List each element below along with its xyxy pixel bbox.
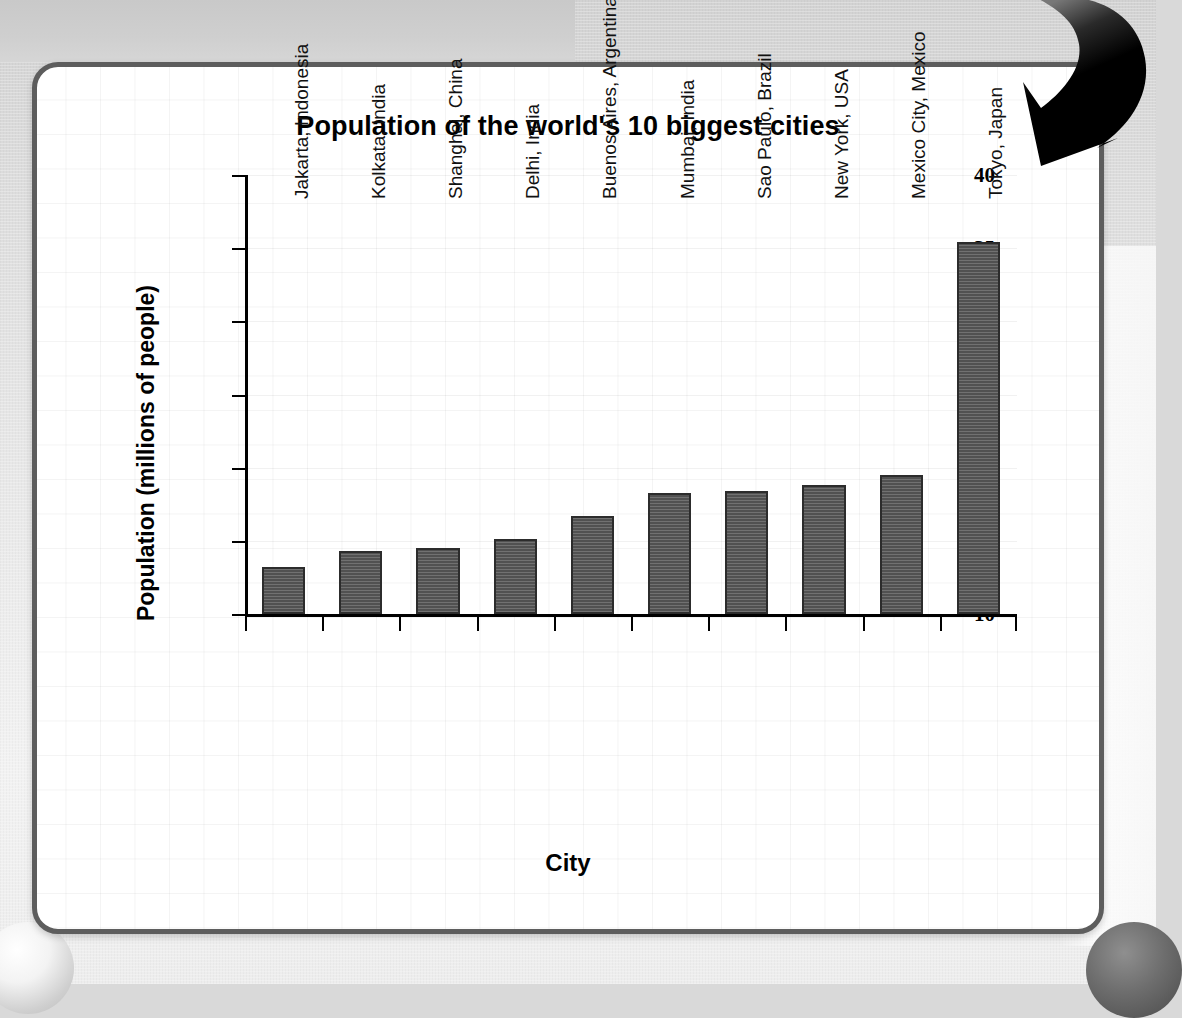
y-tick [232,395,245,397]
gridline [247,175,1017,176]
bar [648,493,691,614]
gridline [247,395,1017,396]
category-label: Delhi, India [522,104,544,199]
category-label: Buenos Aires, Argentina [599,0,621,199]
bar [725,491,768,614]
category-label: Kolkata, India [368,84,390,199]
chart-title: Population of the world's 10 biggest cit… [37,111,1099,142]
chart-panel: Population of the world's 10 biggest cit… [32,62,1104,934]
category-label: New York, USA [831,69,853,199]
x-tick [631,617,633,631]
x-tick [785,617,787,631]
category-label: Tokyo, Japan [985,87,1007,199]
x-tick [1015,617,1017,631]
bar [339,551,382,614]
y-tick [232,614,245,616]
y-tick [232,541,245,543]
y-axis-line [245,175,248,617]
x-tick [322,617,324,631]
category-label: Jakarta, Indonesia [291,44,313,199]
category-label: Shanghai, China [445,59,467,200]
bar [416,548,459,614]
bar [957,242,1000,614]
x-tick [940,617,942,631]
bar [494,539,537,614]
gridline [247,321,1017,322]
x-tick [863,617,865,631]
x-axis-label: City [37,849,1099,877]
x-tick [477,617,479,631]
bar [880,475,923,614]
x-tick [399,617,401,631]
x-tick [245,617,247,631]
category-label: Mumbai, India [677,80,699,199]
bar [571,516,614,614]
x-tick [708,617,710,631]
y-axis-label: Population (millions of people) [133,243,160,663]
y-tick [232,248,245,250]
background-band [0,0,575,62]
x-tick [554,617,556,631]
bar [802,485,845,614]
y-tick [232,468,245,470]
category-label: Sao Paulo, Brazil [754,53,776,199]
category-label: Mexico City, Mexico [908,31,930,199]
gridline [247,248,1017,249]
gridline [247,468,1017,469]
decorative-sphere-bottom-right [1086,922,1182,1018]
bar [262,567,305,614]
plot-area: 10152025303540 Jakarta, IndonesiaKolkata… [245,175,1017,617]
y-tick [232,175,245,177]
y-tick [232,321,245,323]
